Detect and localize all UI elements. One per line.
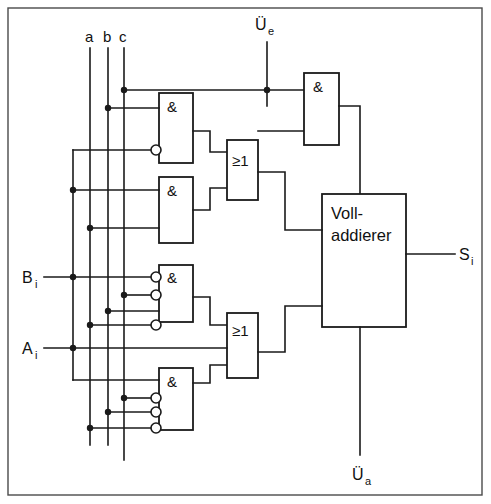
wire-and5-to-adder (339, 106, 360, 194)
inverter-bubble-and4-in3 (151, 407, 161, 417)
wire-and1-to-or1 (193, 131, 227, 152)
or-gate-2-symbol: ≥1 (232, 322, 249, 339)
bus-label-a: a (85, 28, 94, 45)
input-label-bi-sub: i (35, 278, 37, 290)
junction-c-and3 (121, 292, 127, 298)
junction-b-and3 (105, 308, 111, 314)
inverter-bubble-and4-in2 (151, 393, 161, 403)
or-gate-1-box (227, 140, 258, 200)
bus-label-b: b (103, 28, 111, 45)
wire-or1-to-adder (258, 172, 322, 230)
and-gate-4-symbol: & (167, 373, 177, 390)
inverter-bubble-and3-in1 (151, 272, 161, 282)
output-label-ua: Ü (352, 466, 364, 483)
input-label-ai: A (22, 340, 33, 357)
output-label-si: S (459, 246, 470, 263)
inverter-bubble-and3-in4 (151, 320, 161, 330)
wire-and4-to-or2 (193, 365, 227, 383)
junction-a-and3 (87, 322, 93, 328)
diagram-frame (8, 8, 482, 495)
full-adder-label-line1: Voll- (331, 204, 363, 222)
and-gate-3-symbol: & (167, 269, 177, 286)
inverter-bubble-and3-in2 (151, 290, 161, 300)
wire-and2-to-or1 (193, 188, 227, 210)
junction-c-and5 (121, 87, 127, 93)
wire-and3-to-or2 (193, 297, 227, 325)
inverter-bubble-and1-in2 (151, 145, 161, 155)
junction-ue-and5 (264, 87, 270, 93)
input-label-ue-sub: e (268, 25, 274, 37)
circuit-svg: & & & ≥1 Voll- addierer (0, 0, 491, 504)
junction-b-and4 (105, 409, 111, 415)
junction-a-and2 (87, 225, 93, 231)
and-gate-5-symbol: & (313, 78, 323, 95)
junction-c-and4 (121, 395, 127, 401)
output-label-ua-sub: a (365, 475, 372, 487)
and-gate-1-symbol: & (167, 98, 177, 115)
and-gate-2-symbol: & (167, 182, 177, 199)
input-label-ue: Ü (255, 16, 267, 33)
output-label-si-sub: i (471, 255, 473, 267)
or-gate-1-symbol: ≥1 (232, 152, 249, 169)
junction-b-and1 (105, 105, 111, 111)
input-label-ai-sub: i (35, 349, 37, 361)
full-adder-label-line2: addierer (331, 226, 392, 244)
wire-or2-to-adder (258, 306, 322, 352)
inverter-bubble-and4-in4 (151, 423, 161, 433)
junction-a-and4 (87, 425, 93, 431)
diagram-canvas: & & & ≥1 Voll- addierer (0, 0, 491, 504)
bus-label-c: c (119, 28, 127, 45)
input-label-bi: B (22, 269, 33, 286)
